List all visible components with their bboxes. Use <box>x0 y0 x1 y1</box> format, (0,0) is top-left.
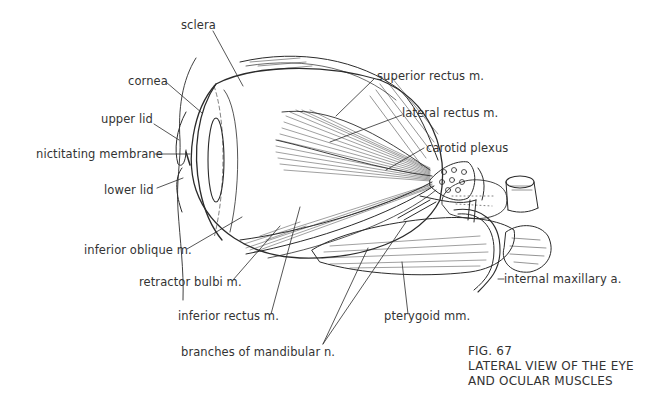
label-upper-lid: upper lid <box>101 112 153 126</box>
label-lateral-rectus: lateral rectus m. <box>402 106 498 120</box>
figure-number: FIG. 67 <box>468 344 634 359</box>
figure-title-line1: LATERAL VIEW OF THE EYE <box>468 359 634 374</box>
label-branches-mandibular: branches of mandibular n. <box>181 345 335 359</box>
label-sclera: sclera <box>181 18 216 32</box>
label-retractor-bulbi: retractor bulbi m. <box>139 275 242 289</box>
label-cornea: cornea <box>128 74 168 88</box>
label-nictitating-membrane: nictitating membrane <box>36 147 163 161</box>
label-inferior-rectus: inferior rectus m. <box>178 309 279 323</box>
label-internal-maxillary: internal maxillary a. <box>504 272 621 286</box>
figure-title-line2: AND OCULAR MUSCLES <box>468 374 634 389</box>
label-carotid-plexus: carotid plexus <box>426 141 508 155</box>
label-pterygoid: pterygoid mm. <box>384 309 470 323</box>
label-superior-rectus: superior rectus m. <box>377 69 484 83</box>
figure-caption: FIG. 67 LATERAL VIEW OF THE EYE AND OCUL… <box>468 344 634 389</box>
label-inferior-oblique: inferior oblique m. <box>84 243 192 257</box>
anatomical-figure: sclera cornea upper lid nictitating memb… <box>0 0 656 414</box>
label-lower-lid: lower lid <box>104 183 154 197</box>
